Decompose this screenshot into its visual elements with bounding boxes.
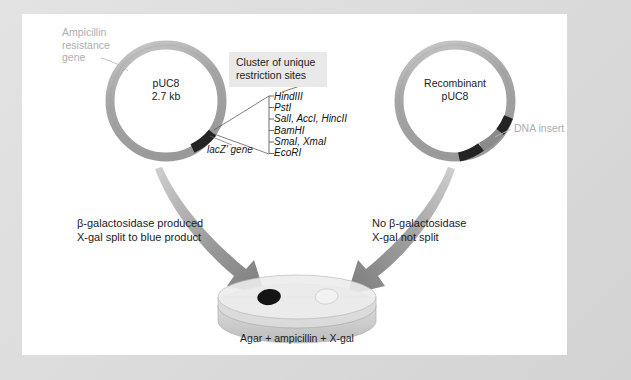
restriction-site-item: SalI, AccI, HincII: [274, 113, 347, 124]
right-outcome-text: No β-galactosidase X-gal not split: [372, 217, 466, 244]
right-plasmid-name-line2: pUC8: [442, 90, 469, 102]
restriction-site-item: BamHI: [274, 125, 347, 136]
restriction-site-item: PstI: [274, 102, 347, 113]
right-plasmid-name-line1: Recombinant: [424, 77, 486, 89]
dish-lid-top: [218, 275, 376, 319]
restriction-site-item: EcoRI: [274, 147, 347, 158]
restriction-sites-list: HindIII PstI SalI, AccI, HincII BamHI Sm…: [274, 91, 347, 158]
cluster-restriction-sites-box: Cluster of unique restriction sites: [229, 52, 327, 87]
restriction-site-item: SmaI, XmaI: [274, 136, 347, 147]
cluster-label-line2: restriction sites: [236, 69, 306, 81]
left-outcome-line2: X-gal split to blue product: [77, 231, 201, 243]
diagram-stage: Ampicillin resistance gene Cluster of un…: [22, 14, 567, 355]
lacz-gene-label: lacZ′ gene: [207, 144, 253, 155]
left-plasmid-size: 2.7 kb: [152, 90, 181, 102]
dna-insert-segment: [481, 132, 500, 147]
cluster-label-line1: Cluster of unique: [236, 56, 315, 68]
left-outcome-text: β-galactosidase produced X-gal split to …: [77, 217, 203, 244]
restriction-site-item: HindIII: [274, 91, 347, 102]
figure-panel: Ampicillin resistance gene Cluster of un…: [22, 14, 567, 355]
left-plasmid-name-line1: pUC8: [153, 77, 180, 89]
lacz-fragment-upper: [500, 117, 509, 132]
plate-caption: Agar + ampicillin + X-gal: [212, 332, 382, 344]
left-outcome-line1: β-galactosidase produced: [77, 217, 203, 229]
right-outcome-line1: No β-galactosidase: [372, 217, 466, 229]
dna-insert-label: DNA insert: [514, 122, 564, 134]
right-outcome-line2: X-gal not split: [372, 231, 439, 243]
ampicillin-resistance-label: Ampicillin resistance gene: [62, 26, 124, 64]
figure-frame: Ampicillin resistance gene Cluster of un…: [0, 0, 631, 380]
right-plasmid-name: Recombinant pUC8: [407, 77, 503, 102]
left-plasmid-name: pUC8 2.7 kb: [130, 77, 202, 102]
